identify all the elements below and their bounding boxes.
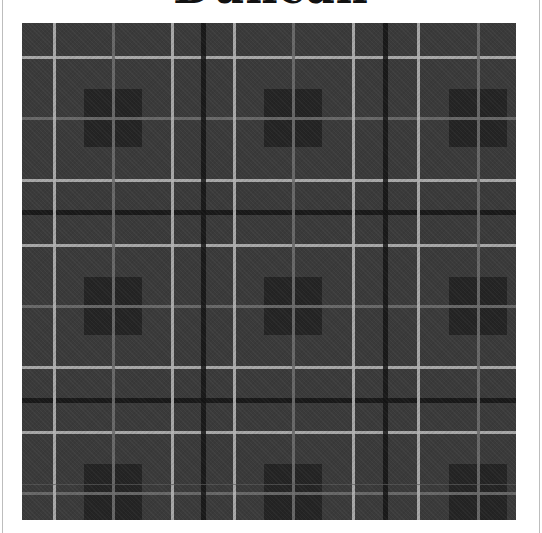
horizontal-stripe-bright [22,244,516,247]
vertical-stripe-bright [233,23,236,520]
vertical-stripe-bright [352,23,355,520]
vertical-stripe-bright [53,23,56,520]
horizontal-stripe-bright [22,431,516,434]
horizontal-stripe-bright [22,179,516,182]
scan-line-artifact [22,484,516,485]
vertical-stripe-bright [171,23,174,520]
horizontal-stripe-bright [22,366,516,369]
vertical-stripe-dim [477,23,480,520]
vertical-stripe-dim [112,23,115,520]
vertical-stripe-dim [292,23,295,520]
left-frame-line [2,0,3,533]
horizontal-stripe-black [22,210,516,215]
horizontal-stripe-bright [22,56,516,59]
vertical-stripe-black [383,23,388,520]
horizontal-stripe-dim [22,117,516,120]
tartan-swatch [22,23,516,520]
horizontal-stripe-dim [22,305,516,308]
horizontal-stripe-black [22,398,516,403]
vertical-stripe-bright [417,23,420,520]
tartan-title: Duncan [0,0,542,6]
vertical-stripe-black [201,23,206,520]
right-frame-line [539,0,540,533]
horizontal-stripe-dim [22,492,516,495]
